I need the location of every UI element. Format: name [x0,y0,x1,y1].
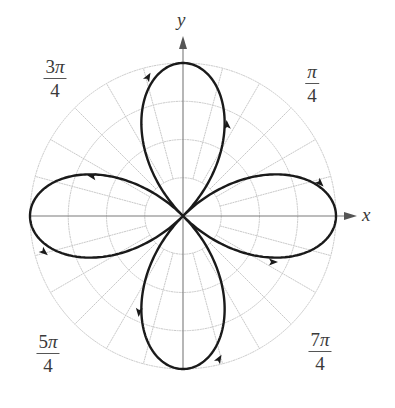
pi-symbol: π [48,331,58,352]
label-coef: 7 [310,329,320,350]
label-denominator: 4 [305,84,319,105]
y-axis-label: y [177,10,185,29]
direction-arrow-icon [269,259,278,266]
polar-rose-chart: y x π 4 3π 4 5π 4 7π 4 [0,0,395,408]
angle-label-pi-over-4: π 4 [305,62,319,105]
angle-label-7pi-over-4: 7π 4 [308,330,331,373]
pi-symbol: π [320,329,330,350]
pi-symbol: π [307,61,317,82]
direction-arrow-icon [214,353,225,364]
y-axis-arrow-icon [179,36,187,49]
direction-arrow-icon [86,172,96,180]
label-coef: 5 [38,331,48,352]
angle-label-5pi-over-4: 5π 4 [36,332,59,375]
label-denominator: 4 [36,354,59,375]
pi-symbol: π [55,56,65,77]
label-denominator: 4 [308,352,331,373]
angle-label-3pi-over-4: 3π 4 [43,57,66,100]
x-axis-label: x [362,205,370,224]
direction-arrow-icon [39,247,50,258]
label-coef: 3 [45,56,55,77]
label-denominator: 4 [43,79,66,100]
x-axis-arrow-icon [344,212,357,220]
